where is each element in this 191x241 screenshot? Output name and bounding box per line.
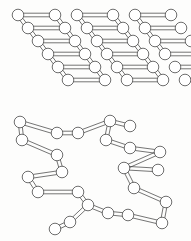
monomer-node: [117, 22, 129, 34]
bond-segment: [91, 208, 103, 213]
monomer-node: [49, 9, 61, 21]
monomer-node: [127, 35, 139, 47]
monomer-node: [175, 22, 187, 34]
monomer-node: [128, 182, 140, 194]
monomer-node: [169, 61, 181, 73]
monomer-node: [56, 166, 68, 178]
monomer-node: [104, 115, 116, 127]
bond-segment: [32, 174, 58, 178]
monomer-node: [32, 35, 44, 47]
bond-segment: [129, 155, 157, 168]
monomer-node: [49, 223, 61, 235]
amorphous-bonds: [19, 120, 167, 229]
monomer-node: [124, 120, 136, 132]
crystalline-bonds: [19, 13, 191, 82]
monomer-node: [79, 48, 91, 60]
monomer-node: [137, 48, 149, 60]
monomer-node: [59, 22, 71, 34]
bond-segment: [74, 209, 86, 220]
monomer-node: [121, 74, 133, 86]
bond-segment: [134, 147, 156, 150]
monomer-node: [147, 61, 159, 73]
bond-segment: [25, 121, 54, 130]
monomer-node: [101, 48, 113, 60]
monomer-node: [179, 74, 191, 86]
monomer-node: [62, 74, 74, 86]
monomer-node: [81, 22, 93, 34]
monomer-node: [89, 61, 101, 73]
bond-segment: [83, 124, 107, 133]
monomer-node: [91, 35, 103, 47]
monomer-node: [149, 35, 161, 47]
bond-segment: [132, 214, 158, 220]
bond-segment: [23, 125, 52, 134]
monomer-node: [51, 127, 63, 139]
polymer-structure-diagram: [0, 0, 191, 241]
monomer-node: [152, 164, 164, 176]
monomer-node: [42, 48, 54, 60]
bond-segment: [72, 207, 84, 218]
monomer-node: [100, 134, 112, 146]
monomer-node: [71, 9, 83, 21]
monomer-node: [111, 61, 123, 73]
monomer-node: [139, 22, 151, 34]
monomer-node: [16, 134, 28, 146]
monomer-node: [64, 216, 76, 228]
monomer-node: [129, 9, 141, 21]
bond-segment: [134, 150, 156, 153]
monomer-node: [22, 171, 34, 183]
monomer-node: [118, 162, 130, 174]
crystalline-nodes: [12, 9, 191, 86]
monomer-node: [52, 61, 64, 73]
bond-segment: [132, 218, 158, 224]
bond-segment: [161, 206, 163, 219]
monomer-node: [185, 35, 191, 47]
bond-segment: [114, 120, 126, 123]
monomer-node: [51, 149, 63, 161]
monomer-node: [12, 9, 24, 21]
bond-segment: [128, 166, 154, 168]
monomer-node: [72, 186, 84, 198]
monomer-node: [124, 142, 136, 154]
monomer-node: [32, 186, 44, 198]
monomer-node: [107, 9, 119, 21]
monomer-node: [122, 209, 134, 221]
monomer-node: [14, 116, 26, 128]
bond-segment: [114, 124, 126, 127]
bond-segment: [128, 170, 154, 172]
bond-segment: [81, 121, 105, 130]
amorphous-nodes: [14, 115, 172, 235]
monomer-node: [156, 217, 168, 229]
monomer-node: [157, 74, 169, 86]
monomer-node: [99, 74, 111, 86]
monomer-node: [160, 196, 172, 208]
monomer-node: [72, 127, 84, 139]
monomer-node: [159, 48, 171, 60]
monomer-node: [165, 9, 177, 21]
bond-segment: [165, 206, 167, 219]
bond-segment: [93, 205, 105, 210]
monomer-node: [22, 22, 34, 34]
monomer-node: [154, 146, 166, 158]
bond-segment: [32, 171, 58, 175]
diagram-canvas: [0, 0, 191, 241]
monomer-node: [82, 199, 94, 211]
monomer-node: [69, 35, 81, 47]
monomer-node: [102, 207, 114, 219]
